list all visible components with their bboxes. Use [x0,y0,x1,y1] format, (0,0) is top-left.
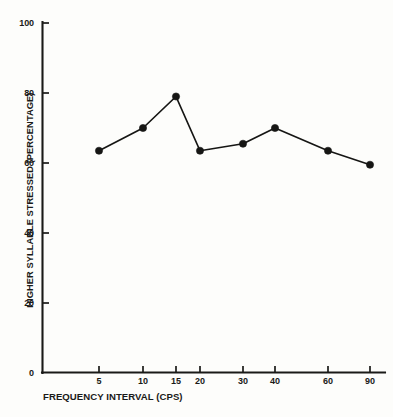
data-point [239,140,246,147]
data-series-line [99,97,370,165]
data-point [196,147,203,154]
plot-area: 100 80 60 40 20 0 5 10 15 20 30 40 60 90… [0,0,393,417]
data-point [95,147,102,154]
x-tick-label-90: 90 [365,377,375,386]
x-tick-label-5: 5 [97,377,102,386]
data-point [366,161,373,168]
x-tick-label-15: 15 [171,377,181,386]
data-point [324,147,331,154]
data-point [139,124,146,131]
x-tick-label-60: 60 [323,377,333,386]
data-point [172,93,179,100]
x-tick-label-20: 20 [195,377,205,386]
x-tick-label-30: 30 [238,377,248,386]
data-point [271,124,278,131]
x-axis-title: FREQUENCY INTERVAL (CPS) [43,392,183,402]
y-tick-label-0: 0 [8,369,34,378]
chart-canvas [0,0,393,417]
y-tick-label-100: 100 [8,19,34,28]
y-axis-title: HIGHER SYLLABLE STRESSED (PERCENTAGE) [26,98,35,308]
chart-figure: 100 80 60 40 20 0 5 10 15 20 30 40 60 90… [0,0,393,417]
x-tick-label-10: 10 [138,377,148,386]
x-tick-label-40: 40 [270,377,280,386]
